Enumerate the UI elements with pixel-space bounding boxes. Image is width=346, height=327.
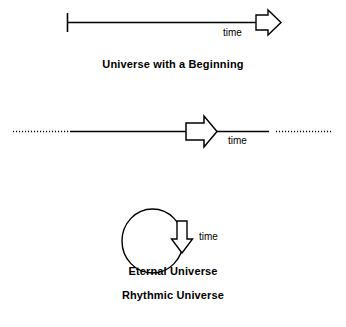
- arrow-right-icon: [256, 10, 281, 35]
- cosmology-time-diagram: time Universe with a Beginning time Eter…: [0, 0, 346, 327]
- panel-universe-with-a-beginning: time Universe with a Beginning: [0, 0, 346, 90]
- caption-rhythmic-universe: Rhythmic Universe: [0, 289, 346, 301]
- panel-rhythmic-universe: time Rhythmic Universe: [0, 198, 346, 327]
- caption-universe-with-a-beginning: Universe with a Beginning: [0, 58, 346, 70]
- time-label-rhythmic: time: [199, 231, 218, 242]
- time-label-beginning: time: [223, 27, 242, 38]
- arrow-right-icon: [186, 116, 217, 147]
- arrow-down-icon: [172, 221, 193, 253]
- beginning-timeline-graphic: [0, 0, 346, 56]
- rhythmic-timeline-graphic: [0, 198, 346, 286]
- panel-eternal-universe: time Eternal Universe: [0, 105, 346, 185]
- eternal-timeline-graphic: [0, 105, 346, 163]
- time-label-eternal: time: [228, 135, 247, 146]
